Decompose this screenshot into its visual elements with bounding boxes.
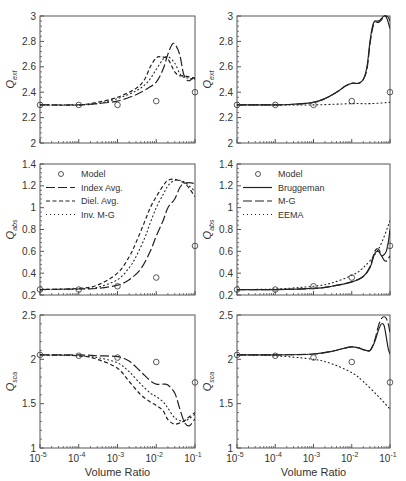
model-marker — [153, 98, 159, 104]
panel-abs-right: 0.20.40.60.811.21.4QabsModelBruggemanM-G… — [201, 159, 393, 301]
x-tick-label: 10-3 — [303, 451, 320, 464]
y-axis-label: Qsca — [4, 372, 18, 392]
y-tick-label: 0.2 — [219, 290, 233, 301]
legend: ModelIndex Avg.Diel. Avg.Inv. M-G — [46, 169, 123, 220]
legend: ModelBruggemanM-GEEMA — [243, 169, 325, 220]
series-bruggeman — [237, 230, 390, 290]
series-eema — [237, 355, 390, 409]
x-tick-label: 10-1 — [379, 451, 396, 464]
y-tick-label: 0.6 — [22, 246, 36, 257]
series-group — [40, 355, 195, 426]
model-marker — [153, 275, 159, 281]
series-group — [237, 221, 390, 290]
series-diel-avg — [40, 56, 195, 105]
plot-frame — [40, 16, 195, 143]
series-eema — [237, 221, 390, 290]
plot-frame — [40, 315, 195, 448]
y-tick-label: 2.4 — [219, 87, 233, 98]
y-tick-label: 2.6 — [219, 61, 233, 72]
y-tick-label: 2.5 — [22, 310, 36, 321]
series-bruggeman — [237, 16, 390, 105]
y-tick-label: 2 — [227, 354, 233, 365]
y-tick-label: 1 — [227, 443, 233, 454]
x-tick-label: 10-1 — [184, 451, 201, 464]
y-tick-label: 0.2 — [22, 290, 36, 301]
series-group — [237, 317, 390, 409]
y-tick-label: 1 — [30, 443, 36, 454]
y-tick-label: 2.2 — [219, 112, 233, 123]
y-tick-label: 1.2 — [22, 180, 36, 191]
x-tick-label: 10-4 — [265, 451, 282, 464]
y-axis-label: Qext — [4, 69, 18, 88]
y-tick-label: 2.8 — [22, 36, 36, 47]
plot-frame — [237, 315, 390, 448]
legend-marker — [59, 172, 64, 177]
x-tick-label: 10-2 — [146, 451, 163, 464]
panel-ext-left: 22.22.42.62.83Qext — [4, 11, 198, 149]
legend-label: Inv. M-G — [81, 210, 115, 220]
series-m-g — [237, 317, 390, 355]
legend-label: M-G — [278, 196, 296, 206]
y-axis-label: Qsca — [201, 372, 215, 392]
y-tick-label: 2.8 — [219, 36, 233, 47]
y-tick-label: 0.4 — [22, 268, 36, 279]
series-m-g — [237, 16, 390, 105]
series-inv-m-g — [40, 355, 195, 422]
x-tick-label: 10-3 — [107, 451, 124, 464]
y-axis-label: Qext — [201, 69, 215, 88]
legend-label: Diel. Avg. — [81, 196, 119, 206]
y-axis-label: Qabs — [4, 219, 18, 239]
legend-label: Bruggeman — [278, 183, 325, 193]
model-marker — [349, 98, 355, 104]
y-tick-label: 2 — [30, 138, 36, 149]
legend-label: Index Avg. — [81, 183, 123, 193]
y-axis-label: Qabs — [201, 219, 215, 239]
y-tick-label: 0.8 — [22, 224, 36, 235]
y-tick-label: 1.4 — [219, 159, 233, 170]
y-tick-label: 1.5 — [22, 398, 36, 409]
x-tick-label: 10-5 — [29, 451, 46, 464]
y-tick-label: 1.2 — [219, 180, 233, 191]
series-index-avg — [40, 355, 195, 426]
y-tick-label: 2 — [227, 138, 233, 149]
y-tick-label: 2 — [30, 354, 36, 365]
legend-marker — [256, 172, 261, 177]
series-bruggeman — [237, 324, 390, 355]
y-tick-label: 3 — [227, 11, 233, 22]
model-marker — [153, 359, 159, 365]
y-tick-label: 1.4 — [22, 159, 36, 170]
panel-abs-left: 0.20.40.60.811.21.4QabsModelIndex Avg.Di… — [4, 159, 198, 301]
y-tick-label: 3 — [30, 11, 36, 22]
y-tick-label: 0.6 — [219, 246, 233, 257]
legend-label: Model — [81, 169, 106, 179]
model-marker — [349, 359, 355, 365]
legend-label: EEMA — [278, 210, 304, 220]
x-tick-label: 10-5 — [226, 451, 243, 464]
series-group — [40, 43, 195, 105]
series-group — [237, 16, 390, 105]
legend-label: Model — [278, 169, 303, 179]
x-axis-label: Volume Ratio — [281, 466, 346, 478]
x-tick-label: 10-4 — [68, 451, 85, 464]
y-tick-label: 2.5 — [219, 310, 233, 321]
figure: 22.22.42.62.83Qext22.22.42.62.83Qext0.20… — [0, 0, 406, 481]
series-index-avg — [40, 43, 195, 105]
panel-sca-left: 11.522.510-510-410-310-210-1Volume Ratio… — [4, 310, 202, 479]
y-tick-label: 2.4 — [22, 87, 36, 98]
plot-frame — [237, 16, 390, 143]
panels-group: 22.22.42.62.83Qext22.22.42.62.83Qext0.20… — [4, 11, 397, 479]
y-tick-label: 1 — [227, 202, 233, 213]
y-tick-label: 2.6 — [22, 61, 36, 72]
y-tick-label: 2.2 — [22, 112, 36, 123]
y-tick-label: 1 — [30, 202, 36, 213]
x-axis-label: Volume Ratio — [85, 466, 150, 478]
y-tick-label: 1.5 — [219, 398, 233, 409]
y-tick-label: 0.4 — [219, 268, 233, 279]
panel-ext-right: 22.22.42.62.83Qext — [201, 11, 393, 149]
panel-sca-right: 11.522.510-510-410-310-210-1Volume Ratio… — [201, 310, 397, 479]
x-tick-label: 10-2 — [341, 451, 358, 464]
model-marker — [115, 102, 121, 108]
y-tick-label: 0.8 — [219, 224, 233, 235]
